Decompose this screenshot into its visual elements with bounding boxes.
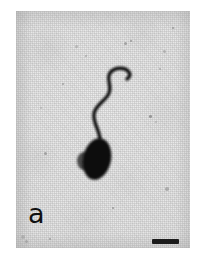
panel-label: a — [28, 200, 45, 227]
scale-bar — [152, 239, 179, 244]
figure-panel: a — [0, 0, 202, 258]
